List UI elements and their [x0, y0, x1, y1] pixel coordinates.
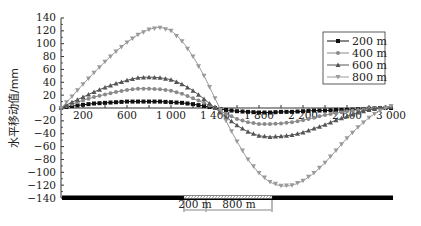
y-tick-label: −140 — [27, 192, 56, 204]
y-tick-label: 80 — [43, 50, 56, 62]
displacement-chart: 140120100806040200−20−40−60−80−100−120−1… — [0, 0, 421, 226]
y-tick-label: 140 — [36, 11, 56, 23]
y-tick-label: 100 — [36, 37, 56, 49]
y-tick-label: 120 — [36, 24, 56, 36]
width-label-200m: 200 m — [178, 198, 211, 210]
y-tick-label: −80 — [34, 153, 56, 165]
y-tick-label: 20 — [43, 89, 56, 101]
y-tick-label: −20 — [34, 114, 56, 126]
y-tick-label: 60 — [43, 63, 56, 75]
y-tick-label: −60 — [34, 140, 56, 152]
y-tick-label: −120 — [27, 179, 56, 191]
y-tick-label: −100 — [27, 166, 56, 178]
y-axis-label: 水平移动值/mm — [8, 68, 21, 148]
legend: 200 m400 m600 m800 m — [323, 32, 387, 84]
x-tick-label: 1 000 — [156, 109, 186, 121]
x-tick-label: 200 — [73, 109, 93, 121]
x-tick-label: 600 — [117, 109, 137, 121]
width-label-800m: 800 m — [222, 198, 255, 210]
legend-label: 800 m — [352, 71, 387, 84]
y-tick-label: 0 — [49, 102, 56, 114]
y-tick-label: −40 — [34, 127, 56, 139]
y-tick-label: 40 — [43, 76, 56, 88]
ground-bar: 200 m800 m — [62, 196, 393, 213]
